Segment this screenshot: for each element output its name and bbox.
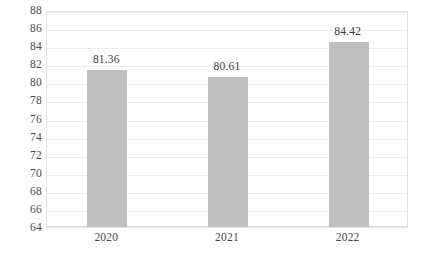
y-axis-tick-label: 64 [4, 222, 42, 234]
y-axis: 88868482807876747270686664 [0, 11, 42, 228]
bar-value-label: 84.42 [313, 26, 383, 38]
y-axis-tick-label: 84 [4, 41, 42, 53]
bar-value-label: 80.61 [192, 61, 262, 73]
bar-chart: 88868482807876747270686664 202020212022 … [0, 0, 422, 264]
bar [87, 70, 127, 227]
y-axis-tick-label: 88 [4, 5, 42, 17]
y-axis-tick-label: 78 [4, 96, 42, 108]
x-axis-tick-label: 2020 [66, 232, 146, 244]
y-axis-tick-label: 86 [4, 23, 42, 35]
y-axis-tick-label: 82 [4, 60, 42, 72]
bar [208, 77, 248, 227]
y-axis-tick-label: 70 [4, 168, 42, 180]
gridline [47, 12, 407, 13]
y-axis-tick-label: 80 [4, 78, 42, 90]
y-axis-tick-label: 68 [4, 186, 42, 198]
x-axis-tick-label: 2021 [187, 232, 267, 244]
plot-area [46, 11, 408, 228]
x-axis-tick-label: 2022 [308, 232, 388, 244]
bar [329, 42, 369, 227]
bar-value-label: 81.36 [71, 54, 141, 66]
y-axis-tick-label: 76 [4, 114, 42, 126]
y-axis-tick-label: 72 [4, 150, 42, 162]
y-axis-tick-label: 74 [4, 132, 42, 144]
x-axis: 202020212022 [46, 232, 408, 252]
y-axis-tick-label: 66 [4, 204, 42, 216]
